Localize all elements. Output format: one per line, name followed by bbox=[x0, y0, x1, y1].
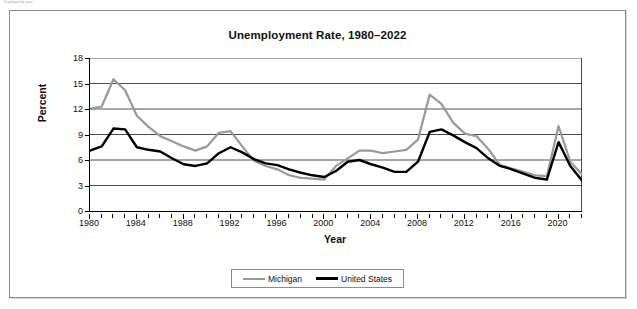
series-line-united-states bbox=[90, 129, 582, 181]
plot-svg bbox=[90, 58, 582, 211]
x-tick-mark-2006 bbox=[394, 214, 395, 218]
plot-area bbox=[89, 58, 582, 212]
y-axis-title: Percent bbox=[36, 63, 48, 143]
x-tick-label-2020: 2020 bbox=[548, 218, 568, 228]
x-axis-title: Year bbox=[89, 233, 581, 245]
x-tick-label-1992: 1992 bbox=[220, 218, 240, 228]
x-tick-mark-1985 bbox=[148, 214, 149, 218]
x-tick-mark-1990 bbox=[206, 214, 207, 218]
chart-title: Unemployment Rate, 1980–2022 bbox=[10, 29, 625, 41]
x-tick-mark-1997 bbox=[288, 214, 289, 218]
x-tick-mark-2001 bbox=[335, 214, 336, 218]
x-tick-label-2000: 2000 bbox=[313, 218, 333, 228]
legend-swatch-icon bbox=[316, 277, 338, 280]
x-tick-label-1988: 1988 bbox=[173, 218, 193, 228]
x-tick-mark-2021 bbox=[569, 214, 570, 218]
x-tick-mark-1989 bbox=[194, 214, 195, 218]
x-tick-label-2016: 2016 bbox=[501, 218, 521, 228]
x-tick-mark-2022 bbox=[581, 214, 582, 218]
x-tick-mark-1994 bbox=[253, 214, 254, 218]
x-tick-mark-1986 bbox=[159, 214, 160, 218]
x-axis-tick-labels: 1980198419881992199620002004200820122016… bbox=[89, 214, 581, 232]
legend-label: United States bbox=[341, 274, 392, 284]
page-header-fragment: Displayed by year bbox=[4, 0, 33, 4]
gridlines bbox=[90, 58, 582, 211]
legend-entry-united-states[interactable]: United States bbox=[316, 274, 392, 284]
y-axis-tick-marks bbox=[57, 58, 90, 211]
x-tick-label-1984: 1984 bbox=[126, 218, 146, 228]
x-tick-mark-2017 bbox=[522, 214, 523, 218]
x-tick-mark-2002 bbox=[347, 214, 348, 218]
x-tick-mark-1993 bbox=[241, 214, 242, 218]
x-tick-label-2012: 2012 bbox=[454, 218, 474, 228]
series-line-michigan bbox=[90, 79, 582, 179]
x-tick-mark-1981 bbox=[101, 214, 102, 218]
x-tick-mark-2009 bbox=[429, 214, 430, 218]
x-tick-label-2004: 2004 bbox=[360, 218, 380, 228]
x-tick-label-2008: 2008 bbox=[407, 218, 427, 228]
x-tick-mark-2005 bbox=[382, 214, 383, 218]
chart-frame: Unemployment Rate, 1980–2022 Percent 036… bbox=[9, 10, 626, 298]
x-tick-mark-1982 bbox=[112, 214, 113, 218]
x-tick-label-1980: 1980 bbox=[79, 218, 99, 228]
x-tick-mark-1998 bbox=[300, 214, 301, 218]
legend-swatch-icon bbox=[243, 278, 265, 280]
x-tick-mark-2013 bbox=[476, 214, 477, 218]
x-tick-mark-2018 bbox=[534, 214, 535, 218]
legend-entry-michigan[interactable]: Michigan bbox=[243, 274, 302, 284]
chart-legend: MichiganUnited States bbox=[231, 269, 404, 288]
x-tick-mark-2014 bbox=[487, 214, 488, 218]
x-tick-label-1996: 1996 bbox=[266, 218, 286, 228]
x-tick-mark-2010 bbox=[440, 214, 441, 218]
legend-label: Michigan bbox=[268, 274, 302, 284]
